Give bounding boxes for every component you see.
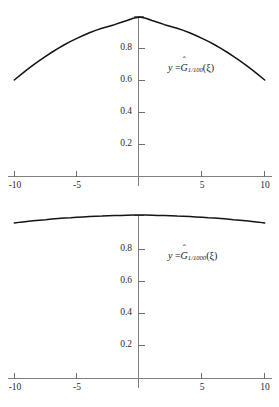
annotation-lhs-top: y [168,62,172,73]
ytick-label-bottom-2: 0.6 [110,276,132,286]
figure-root: 0.2 0.4 0.6 0.8 -10 -5 5 10 y =ˆG1/100(ξ… [0,0,279,407]
curve-annotation-top: y =ˆG1/100(ξ) [168,63,214,74]
plot-panel-bottom: 0.2 0.4 0.6 0.8 -10 -5 5 10 y =ˆG1/1000(… [0,203,279,407]
ytick-label-top-2: 0.6 [110,75,132,85]
xtick-label-bottom-5: 5 [200,383,205,393]
plot-svg-bottom [0,203,279,407]
hat-accent-top: ˆ [183,57,186,67]
xtick-label-top-10: 10 [260,181,270,191]
xtick-label-top-neg5: -5 [73,181,81,191]
annotation-subscript-bottom: 1/1000 [188,254,206,261]
hat-accent-bottom: ˆ [183,245,186,255]
ytick-label-top-0: 0.2 [110,139,132,149]
ytick-label-top-3: 0.8 [110,43,132,53]
ytick-label-bottom-0: 0.2 [110,340,132,350]
curve-g-hat-1-over-1000 [14,215,264,223]
plot-svg-top [0,0,279,203]
xtick-label-top-neg10: -10 [9,181,22,191]
annotation-argument-top: (ξ) [203,62,214,73]
annotation-subscript-top: 1/100 [188,66,203,73]
x-ticks-top [15,171,265,177]
xtick-label-bottom-10: 10 [260,383,270,393]
xtick-label-bottom-neg10: -10 [9,383,22,393]
annotation-func-bottom: ˆG [181,251,188,261]
xtick-label-bottom-neg5: -5 [73,383,81,393]
xtick-label-top-5: 5 [200,181,205,191]
ytick-label-top-1: 0.4 [110,107,132,117]
ytick-label-bottom-3: 0.8 [110,244,132,254]
annotation-lhs-bottom: y [168,250,172,261]
ytick-label-bottom-1: 0.4 [110,308,132,318]
annotation-argument-bottom: (ξ) [206,250,217,261]
y-ticks-top [134,17,146,145]
plot-panel-top: 0.2 0.4 0.6 0.8 -10 -5 5 10 y =ˆG1/100(ξ… [0,0,279,203]
y-ticks-bottom [134,216,146,346]
curve-annotation-bottom: y =ˆG1/1000(ξ) [168,251,217,262]
annotation-func-top: ˆG [181,63,188,73]
x-ticks-bottom [15,373,265,379]
